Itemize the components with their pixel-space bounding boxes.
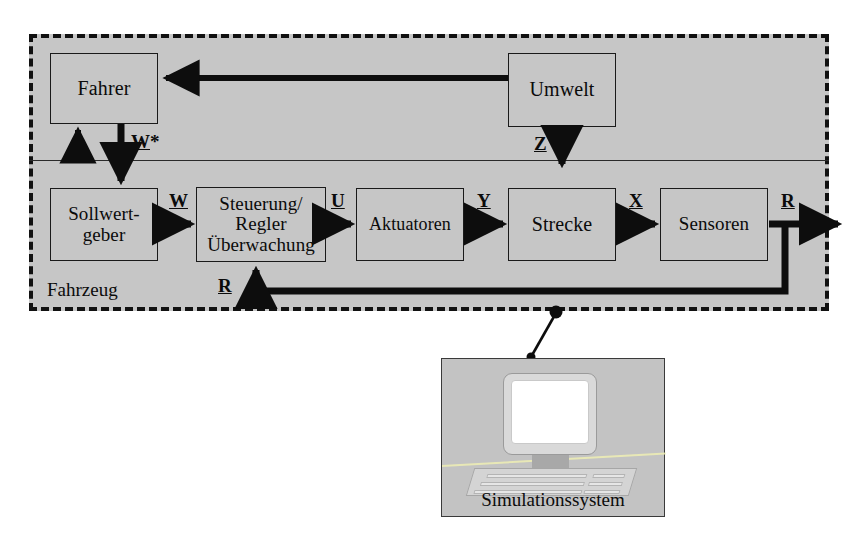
block-steuerung-label-line2: Regler xyxy=(207,214,315,234)
signal-label-z: Z xyxy=(534,133,547,155)
block-fahrer-label: Fahrer xyxy=(51,78,157,99)
signal-symbol-u: U xyxy=(331,190,345,211)
keyboard-row xyxy=(480,482,585,486)
block-umwelt[interactable]: Umwelt xyxy=(508,53,616,127)
block-sollwertgeber[interactable]: Sollwert- geber xyxy=(50,188,158,261)
block-steuerung-label-line1: Steuerung/ xyxy=(207,194,315,214)
vehicle-frame-caption: Fahrzeug xyxy=(47,279,118,301)
signal-symbol-z: Z xyxy=(534,133,547,154)
signal-label-u: U xyxy=(331,190,345,212)
block-strecke[interactable]: Strecke xyxy=(508,188,616,261)
signal-label-w-star: W* xyxy=(131,131,160,153)
signal-symbol-r-feedback: R xyxy=(218,275,232,296)
signal-label-w: W xyxy=(169,190,188,212)
signal-symbol-r-output: R xyxy=(781,190,795,211)
block-sollwertgeber-label-line2: geber xyxy=(68,225,140,245)
signal-symbol-w-star: W xyxy=(131,131,150,152)
block-steuerung-label-line3: Überwachung xyxy=(207,235,315,255)
block-sollwertgeber-label-line1: Sollwert- xyxy=(68,204,140,224)
signal-symbol-w: W xyxy=(169,190,188,211)
callout-leader-line xyxy=(531,313,556,357)
diagram-canvas: Fahrer Umwelt Sollwert- geber Steuerung/… xyxy=(0,0,862,547)
monitor-stand xyxy=(532,455,569,468)
block-umwelt-label: Umwelt xyxy=(509,79,615,100)
block-aktuatoren-label: Aktuatoren xyxy=(357,215,463,234)
block-fahrer[interactable]: Fahrer xyxy=(50,53,158,124)
keyboard-row xyxy=(486,474,587,478)
signal-label-r-output: R xyxy=(781,190,795,212)
keyboard-row xyxy=(588,482,623,486)
block-sensoren[interactable]: Sensoren xyxy=(660,188,768,261)
signal-label-y: Y xyxy=(477,190,491,212)
signal-label-r-feedback: R xyxy=(218,275,232,297)
simulation-system-label: Simulationssystem xyxy=(442,489,664,511)
block-sensoren-label: Sensoren xyxy=(661,214,767,234)
signal-label-x: X xyxy=(629,190,643,212)
block-steuerung-regler-ueberwachung[interactable]: Steuerung/ Regler Überwachung xyxy=(196,187,326,262)
monitor-screen xyxy=(511,380,589,444)
signal-symbol-y: Y xyxy=(477,190,491,211)
keyboard-row xyxy=(592,474,625,478)
driver-vehicle-divider xyxy=(29,160,829,161)
signal-symbol-x: X xyxy=(629,190,643,211)
block-aktuatoren[interactable]: Aktuatoren xyxy=(356,188,464,261)
block-strecke-label: Strecke xyxy=(509,214,615,235)
simulation-system-panel[interactable]: Simulationssystem xyxy=(441,358,665,517)
signal-suffix-w-star: * xyxy=(150,131,160,152)
